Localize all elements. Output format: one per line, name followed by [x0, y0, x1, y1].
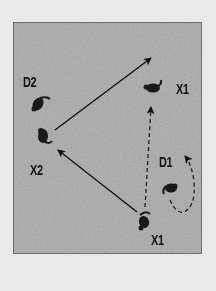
label-x1-bottom: X1	[151, 233, 164, 247]
player-icon-d2	[30, 95, 50, 112]
label-x2: X2	[30, 163, 43, 177]
label-d1: D1	[159, 155, 172, 169]
player-icon-x1-top	[144, 80, 162, 93]
player-icon-x2	[38, 128, 52, 143]
player-icon-d1	[163, 184, 177, 195]
label-d2: D2	[23, 75, 36, 89]
label-x1-top: X1	[176, 82, 189, 96]
pass-arrow-to-x2	[58, 150, 137, 212]
run-arrow-dashed	[145, 107, 151, 207]
pass-arrow-to-x1	[55, 58, 151, 130]
player-icon-x1-bottom	[137, 212, 151, 230]
play-diagram	[0, 0, 216, 291]
